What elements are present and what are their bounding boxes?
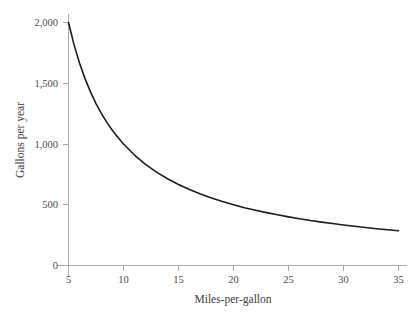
data-curve-gallons-per-year bbox=[69, 23, 399, 231]
y-tick-label-500: 500 bbox=[42, 199, 58, 210]
line-chart-canvas: 2,000 1,500 1,000 500 0 5 10 15 20 25 30… bbox=[0, 0, 418, 323]
x-tick-label-10: 10 bbox=[118, 274, 129, 285]
x-tick-label-30: 30 bbox=[338, 274, 349, 285]
y-tick-label-1000: 1,000 bbox=[34, 139, 58, 150]
y-axis-tick-labels: 2,000 1,500 1,000 500 0 bbox=[34, 17, 58, 271]
x-axis-tick-labels: 5 10 15 20 25 30 35 bbox=[66, 274, 404, 285]
y-axis-title: Gallons per year bbox=[14, 102, 27, 178]
x-axis-title: Miles-per-gallon bbox=[194, 293, 271, 306]
x-tick-label-20: 20 bbox=[228, 274, 239, 285]
x-tick-label-35: 35 bbox=[393, 274, 404, 285]
x-tick-label-15: 15 bbox=[173, 274, 184, 285]
chart-figure: 2,000 1,500 1,000 500 0 5 10 15 20 25 30… bbox=[0, 0, 418, 323]
y-axis-ticks bbox=[63, 23, 68, 266]
y-tick-label-0: 0 bbox=[53, 260, 58, 271]
y-tick-label-1500: 1,500 bbox=[34, 78, 58, 89]
x-tick-label-25: 25 bbox=[283, 274, 294, 285]
x-tick-label-5: 5 bbox=[66, 274, 71, 285]
y-tick-label-2000: 2,000 bbox=[34, 17, 58, 28]
x-axis-ticks bbox=[69, 266, 399, 271]
